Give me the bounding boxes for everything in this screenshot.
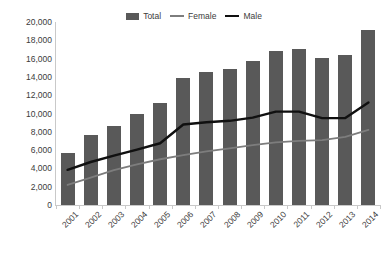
y-tick-label: 16,000 [4, 54, 52, 63]
x-tick-label: 2008 [217, 210, 241, 234]
x-tick-label: 2012 [310, 210, 334, 234]
x-tick-label: 2014 [356, 210, 380, 234]
x-tick-label: 2010 [263, 210, 287, 234]
y-tick-label: 2,000 [4, 182, 52, 191]
x-tick-label: 2004 [125, 210, 149, 234]
y-tick-label: 12,000 [4, 91, 52, 100]
x-tick-label: 2009 [240, 210, 264, 234]
plot-area [56, 22, 380, 205]
legend-swatch-female-icon [170, 15, 184, 17]
x-tick-label: 2007 [194, 210, 218, 234]
x-tick-label: 2011 [287, 210, 311, 234]
x-tick-label: 2005 [148, 210, 172, 234]
legend-swatch-male-icon [225, 15, 239, 17]
x-tick-label: 2013 [333, 210, 357, 234]
y-tick-label: 14,000 [4, 73, 52, 82]
line-male [68, 103, 369, 170]
y-tick-label: 4,000 [4, 164, 52, 173]
y-tick-label: 20,000 [4, 18, 52, 27]
chart-container: Total Female Male 02,0004,0006,0008,0001… [0, 0, 388, 255]
x-tick-label: 2001 [55, 210, 79, 234]
legend-item-female: Female [170, 12, 216, 21]
x-tick-label: 2006 [171, 210, 195, 234]
legend-label-female: Female [188, 12, 216, 21]
chart-legend: Total Female Male [0, 12, 388, 21]
legend-label-male: Male [243, 12, 261, 21]
y-tick-label: 18,000 [4, 36, 52, 45]
y-tick-label: 0 [4, 201, 52, 210]
legend-item-total: Total [126, 12, 161, 21]
y-tick-label: 10,000 [4, 109, 52, 118]
y-axis-tick-labels: 02,0004,0006,0008,00010,00012,00014,0001… [0, 0, 52, 255]
x-tick-label: 2002 [78, 210, 102, 234]
x-tick-label: 2003 [101, 210, 125, 234]
line-female [68, 130, 369, 185]
x-axis-tick-labels: 2001200220032004200520062007200820092010… [56, 208, 380, 254]
legend-item-male: Male [225, 12, 261, 21]
y-tick-label: 6,000 [4, 146, 52, 155]
line-series-group [56, 22, 380, 205]
legend-swatch-total-icon [126, 13, 139, 20]
x-tick-mark [380, 205, 381, 209]
y-tick-label: 8,000 [4, 128, 52, 137]
legend-label-total: Total [143, 12, 161, 21]
